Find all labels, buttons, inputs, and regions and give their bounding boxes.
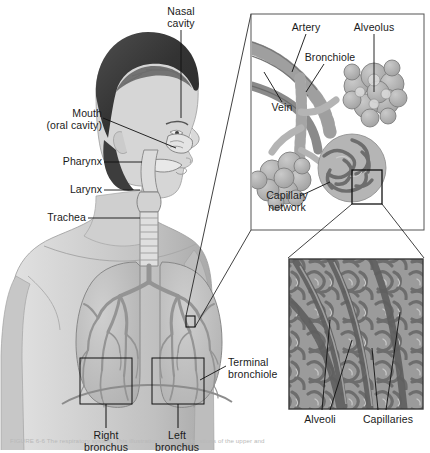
torso-shape (1, 190, 214, 450)
label-alveoli: Alveoli (292, 414, 348, 426)
inset-bottom-leader-lines (322, 312, 400, 410)
label-capillary-network: Capillary network (256, 190, 318, 213)
inset-bottom-artwork (289, 258, 423, 409)
alveolus-cluster-right (343, 60, 407, 127)
head-profile (96, 32, 199, 198)
lungs (62, 262, 232, 407)
bronchus-brackets (80, 358, 204, 428)
label-artery: Artery (283, 22, 329, 34)
figure-caption: FIGURE 6-6 The respiratory system. This … (10, 437, 422, 449)
label-nasal-cavity: Nasal cavity (152, 6, 210, 29)
label-alveolus: Alveolus (346, 22, 402, 34)
label-pharynx: Pharynx (32, 156, 102, 168)
label-larynx: Larynx (38, 184, 102, 196)
magnification-callout-top (186, 14, 251, 327)
label-terminal-bronchiole: Terminal bronchiole (228, 357, 304, 380)
lung-detail-box (186, 316, 195, 327)
label-bronchiole: Bronchiole (297, 52, 363, 64)
label-capillaries: Capillaries (352, 414, 424, 426)
label-mouth: Mouth (oral cavity) (16, 108, 102, 131)
label-trachea: Trachea (22, 212, 86, 224)
label-vein: Vein (264, 102, 300, 114)
airway-structures (137, 134, 193, 266)
body-leader-lines (88, 30, 226, 380)
capillary-network-artwork (318, 134, 386, 202)
